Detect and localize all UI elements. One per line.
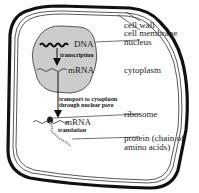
transport-arrow bbox=[54, 110, 62, 118]
label-transcription: transcription bbox=[60, 52, 94, 59]
label-transport-line2: through nuclear pore bbox=[59, 102, 113, 109]
label-dna: DNA bbox=[74, 40, 94, 49]
label-mrna-nucleus: mRNA bbox=[68, 66, 94, 75]
nucleus bbox=[32, 26, 96, 93]
label-mrna-cytoplasm: mRNA bbox=[65, 118, 91, 127]
label-nucleus: nucleus bbox=[124, 38, 152, 47]
label-ribosome: ribosome bbox=[124, 110, 158, 119]
label-protein-line2: amino acids) bbox=[124, 143, 170, 152]
label-cytoplasm: cytoplasm bbox=[124, 66, 161, 75]
label-translation: translation bbox=[58, 127, 86, 134]
